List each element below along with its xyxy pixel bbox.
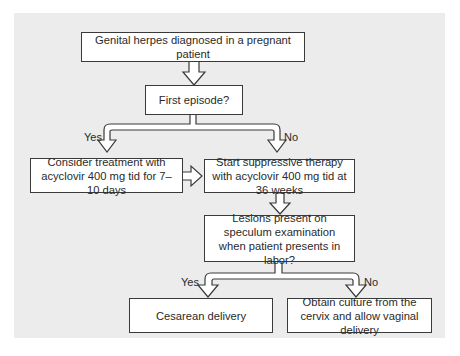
node-first-episode: First episode? [145, 85, 243, 115]
branch-label-lesions-yes: Yes [181, 276, 199, 288]
node-cesarean-text: Cesarean delivery [156, 309, 246, 323]
node-culture-vaginal-text: Obtain culture from the cervix and allow… [292, 295, 427, 337]
branch-split-icon [98, 114, 286, 152]
node-start-text: Genital herpes diagnosed in a pregnant p… [86, 33, 300, 61]
node-first-episode-text: First episode? [159, 93, 229, 107]
branch-label-lesions-no: No [364, 276, 378, 288]
branch-label-first-yes: Yes [84, 131, 102, 143]
node-lesions-question-text: Lesions present on speculum examination … [215, 211, 344, 267]
node-consider-treatment-text: Consider treatment with acyclovir 400 mg… [35, 155, 178, 197]
arrow-down-icon [183, 61, 205, 85]
node-start: Genital herpes diagnosed in a pregnant p… [81, 32, 305, 62]
node-suppressive-therapy-text: Start suppressive therapy with acyclovir… [209, 155, 350, 197]
node-lesions-question: Lesions present on speculum examination … [204, 215, 355, 262]
branch-label-first-no: No [284, 131, 298, 143]
node-cesarean: Cesarean delivery [129, 298, 273, 333]
node-consider-treatment: Consider treatment with acyclovir 400 mg… [30, 158, 183, 193]
arrow-right-icon [183, 166, 202, 186]
node-culture-vaginal: Obtain culture from the cervix and allow… [287, 298, 432, 333]
node-suppressive-therapy: Start suppressive therapy with acyclovir… [204, 159, 355, 193]
